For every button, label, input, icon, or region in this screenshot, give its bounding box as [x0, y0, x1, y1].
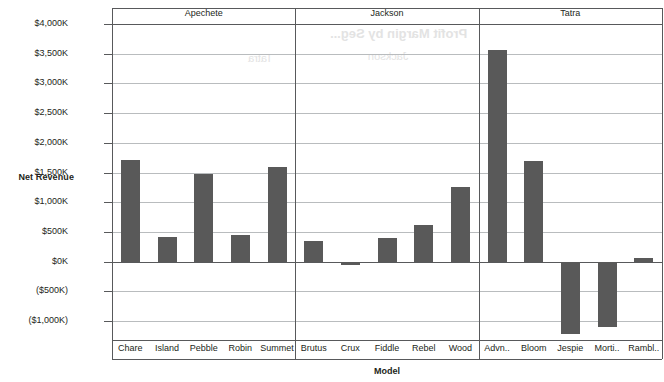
y-axis-tick-label-text: $4,000K: [34, 18, 68, 28]
y-axis-tick-label-text: ($1,000K): [28, 315, 68, 325]
y-axis-tick-mark: [104, 321, 112, 322]
x-axis-tick-label: Fiddle: [369, 343, 406, 353]
bar[interactable]: [634, 258, 653, 262]
x-axis-tick-label: Brutus: [295, 343, 332, 353]
plot-right-edge: [662, 8, 663, 359]
x-axis-tick-label: Advn..: [479, 343, 516, 353]
y-axis-tick-label-text: $1,000K: [34, 196, 68, 206]
gridline: [112, 113, 662, 114]
y-axis-tick-mark: [104, 83, 112, 84]
gridline: [112, 143, 662, 144]
group-band-top-border: [112, 8, 662, 9]
group-label-jackson: Jackson: [295, 8, 478, 18]
y-axis-tick-mark: [104, 24, 112, 25]
y-axis-tick-mark: [104, 262, 112, 263]
y-axis-tick-label-text: $2,500K: [34, 107, 68, 117]
bar[interactable]: [268, 167, 287, 262]
bar[interactable]: [488, 50, 507, 261]
x-axis-tick-label: Bloom: [515, 343, 552, 353]
group-separator: [295, 8, 296, 359]
bar[interactable]: [524, 161, 543, 262]
group-label-tatra: Tatra: [479, 8, 662, 18]
y-axis-spine: [112, 8, 113, 359]
x-axis-title: Model: [112, 366, 662, 376]
y-axis-tick-label-text: ($500K): [36, 285, 68, 295]
y-axis-tick-mark: [104, 143, 112, 144]
x-axis-tick-label: Morti..: [589, 343, 626, 353]
bar[interactable]: [378, 238, 397, 261]
y-axis-tick-label-text: $3,000K: [34, 77, 68, 87]
gridline: [112, 83, 662, 84]
bar[interactable]: [158, 237, 177, 262]
y-axis-tick-mark: [104, 291, 112, 292]
x-axis-tick-label: Wood: [442, 343, 479, 353]
y-axis-tick-label-text: $1,500K: [34, 167, 68, 177]
x-axis-tick-label: Jespie: [552, 343, 589, 353]
group-header-band: ApecheteJacksonTatra: [112, 8, 662, 24]
x-axis-tick-label: Island: [149, 343, 186, 353]
group-label-apechete: Apechete: [112, 8, 295, 18]
gridline: [112, 54, 662, 55]
x-axis-label-band-top: [112, 340, 662, 341]
y-axis-tick-label-text: $0K: [52, 256, 68, 266]
bar[interactable]: [598, 262, 617, 327]
x-axis-tick-label: Crux: [332, 343, 369, 353]
y-axis-tick-mark: [104, 113, 112, 114]
bar[interactable]: [414, 225, 433, 262]
bar[interactable]: [231, 235, 250, 261]
y-axis-tick-mark: [104, 232, 112, 233]
x-axis-tick-labels: ChareIslandPebbleRobinSummetBrutusCruxFi…: [112, 343, 662, 359]
y-axis-tick-label-text: $2,000K: [34, 137, 68, 147]
bar[interactable]: [451, 187, 470, 262]
bar-chart: Profit Margin by Seg... Jackson Tatra Ap…: [0, 0, 664, 382]
gridline: [112, 24, 662, 25]
plot-area: [112, 24, 662, 321]
y-axis-tick-mark: [104, 54, 112, 55]
x-axis-tick-label: Pebble: [185, 343, 222, 353]
bar[interactable]: [561, 262, 580, 334]
bar[interactable]: [121, 160, 140, 262]
bar[interactable]: [304, 241, 323, 262]
y-axis-tick-label-text: $500K: [42, 226, 68, 236]
x-axis-tick-label: Robin: [222, 343, 259, 353]
bar[interactable]: [341, 262, 360, 266]
x-axis-tick-label: Chare: [112, 343, 149, 353]
y-axis-tick-label-text: $3,500K: [34, 48, 68, 58]
x-axis-bottom-border: [112, 359, 662, 360]
x-axis-tick-label: Rambl..: [625, 343, 662, 353]
group-separator: [479, 8, 480, 359]
y-axis-tick-mark: [104, 173, 112, 174]
y-axis-tick-mark: [104, 202, 112, 203]
bar[interactable]: [194, 174, 213, 262]
x-axis-tick-label: Summet: [259, 343, 296, 353]
x-axis-tick-label: Rebel: [405, 343, 442, 353]
